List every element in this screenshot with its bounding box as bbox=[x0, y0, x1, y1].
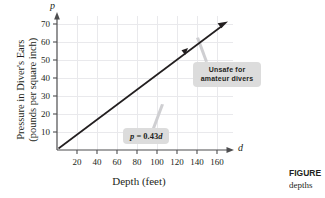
x-tick-label: 100 bbox=[148, 158, 166, 167]
y-axis-title: Pressure in Diver's Ears (pounds per squ… bbox=[15, 5, 39, 175]
figure-caption-text: depths bbox=[289, 179, 325, 191]
figure-caption: FIGURE depths bbox=[289, 168, 325, 192]
x-tick-label: 40 bbox=[88, 158, 106, 167]
x-tick-label: 160 bbox=[208, 158, 226, 167]
equation-variable-d: d bbox=[158, 131, 162, 141]
unsafe-callout-line1: Unsafe for bbox=[196, 66, 258, 75]
y-axis-title-line2: (pounds per square inch) bbox=[27, 5, 39, 175]
figure-caption-label: FIGURE bbox=[289, 168, 325, 179]
x-tick-label: 140 bbox=[188, 158, 206, 167]
equation-callout: p = 0.43d bbox=[123, 128, 169, 144]
y-axis-variable-label: p bbox=[50, 1, 55, 11]
x-tick-label: 80 bbox=[128, 158, 146, 167]
x-axis bbox=[57, 147, 234, 154]
y-axis bbox=[53, 12, 60, 150]
unsafe-callout-line2: amateur divers bbox=[196, 75, 258, 84]
equation-operator: = 0.43 bbox=[134, 131, 158, 141]
y-axis-title-line1: Pressure in Diver's Ears bbox=[15, 5, 27, 175]
x-tick-label: 120 bbox=[168, 158, 186, 167]
figure-root: 70 60 50 40 30 20 10 20 40 60 80 100 120… bbox=[0, 0, 325, 198]
unsafe-callout: Unsafe for amateur divers bbox=[193, 62, 261, 87]
equation-leader bbox=[152, 104, 164, 129]
x-axis-title: Depth (feet) bbox=[44, 176, 234, 187]
x-axis-variable-label: d bbox=[238, 143, 243, 153]
x-tick-label: 60 bbox=[108, 158, 126, 167]
x-tick-label: 20 bbox=[68, 158, 86, 167]
